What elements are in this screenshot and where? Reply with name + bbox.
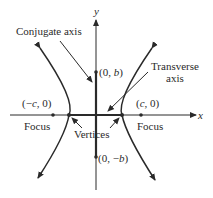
focus-right-point bbox=[139, 113, 143, 117]
transverse-axis-label-line1: Transverse bbox=[151, 60, 199, 72]
vertices-pointer-left bbox=[72, 118, 82, 128]
x-axis-label: x bbox=[198, 109, 203, 121]
point-0-neg-b-label: (0, −b) bbox=[98, 152, 128, 164]
transverse-axis-label-line2: axis bbox=[166, 72, 184, 84]
point-0-b-label: (0, b) bbox=[99, 66, 123, 78]
point-c-0-label: (c, 0) bbox=[136, 97, 159, 109]
conjugate-axis-pointer bbox=[60, 41, 92, 82]
vertices-label: Vertices bbox=[74, 128, 109, 140]
vertex-right-point bbox=[120, 113, 124, 117]
vertices-pointer-right bbox=[110, 118, 119, 128]
conjugate-axis-label: Conjugate axis bbox=[16, 25, 82, 37]
point-neg-c-0-label: (−c, 0) bbox=[22, 97, 51, 109]
focus-right-label: Focus bbox=[137, 120, 163, 132]
hyperbola-left-branch bbox=[38, 48, 70, 178]
point-0-b bbox=[94, 70, 98, 74]
focus-left-label: Focus bbox=[24, 120, 50, 132]
y-axis-label: y bbox=[94, 5, 99, 17]
vertex-left-point bbox=[67, 113, 71, 117]
focus-left-point bbox=[51, 113, 55, 117]
